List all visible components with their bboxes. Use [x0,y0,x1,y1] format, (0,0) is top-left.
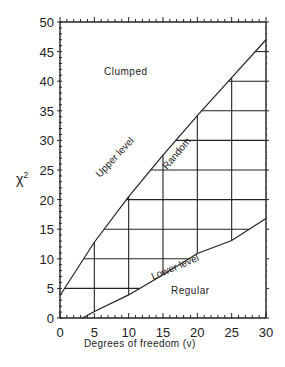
y-tick-label: 45 [40,45,54,60]
y-tick-label: 30 [40,133,54,148]
x-axis-label: Degrees of freedom (ν) [84,338,196,349]
chi-square-chart: 05101520253035404550051015202530Upper le… [0,0,285,367]
label-lower-level: Lower level [149,252,200,282]
y-tick-label: 25 [40,163,54,178]
y-tick-label: 15 [40,222,54,237]
y-axis-label: χ2 [16,170,28,187]
y-tick-label: 40 [40,74,54,89]
y-tick-label: 5 [47,281,54,296]
y-tick-label: 35 [40,104,54,119]
y-tick-label: 50 [40,15,54,30]
label-regular: Regular [171,285,210,296]
y-tick-label: 20 [40,193,54,208]
y-tick-label: 0 [47,311,54,326]
y-tick-label: 10 [40,252,54,267]
chart-svg: 05101520253035404550051015202530Upper le… [0,0,285,367]
x-tick-label: 25 [224,325,238,340]
label-clumped: Clumped [104,66,148,77]
x-tick-label: 30 [259,325,273,340]
x-tick-label: 0 [56,325,63,340]
label-upper-level: Upper level [93,135,136,180]
